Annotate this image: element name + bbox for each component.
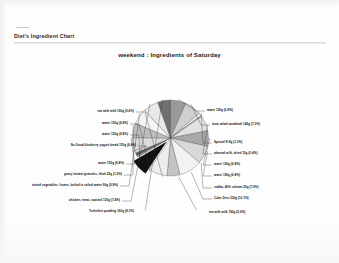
- pie-slice-label: almond milk, dried 12g (0.4%): [214, 152, 257, 155]
- pie-slice-label: gravy instant granules, thick 25g (1.2%): [64, 173, 122, 176]
- pie-slice-label: vodka, 40% volume 25g (7.9%): [214, 186, 259, 189]
- pie-slice-label: tea with milk 190g (5.6%): [209, 211, 245, 214]
- pie-chart: water 150g (6.8%)tuna salad sandwich 145…: [0, 62, 339, 210]
- pie-slice-label: water 150g (6.8%): [207, 109, 233, 112]
- pie-chart-svg: [0, 62, 339, 210]
- header-divider-secondary: [14, 43, 326, 44]
- pie-slice-label: water 150g (6.8%): [102, 122, 128, 125]
- chart-title: weekend : Ingredients of Saturday: [0, 51, 339, 58]
- scan-edge-shadow-top: [0, 0, 339, 7]
- pie-slice-label: chicken, meat, roasted 130g (7.4%): [69, 199, 120, 202]
- leader-line: [201, 163, 212, 188]
- pie-slice-label: water 150g (6.8%): [214, 174, 240, 177]
- pie-slice-label: tea with milk 190g (5.6%): [98, 110, 134, 113]
- pie-slice-label: So Good blueberry yogurt break 150g (6.4…: [71, 144, 136, 147]
- pie-slice-label: water 150g (6.8%): [98, 162, 124, 165]
- pie-slice-label: Coke Zero 330g (10.1%): [214, 197, 249, 200]
- pie-slice-label: Yorkshire pudding 160g (8.1%): [89, 210, 134, 213]
- pie-slice-label: water 150g (6.8%): [102, 133, 128, 136]
- page-tick-mark: [16, 27, 29, 28]
- pie-slice-label: mixed vegetables, frozen, boiled in salt…: [32, 184, 118, 187]
- leader-line: [179, 177, 207, 210]
- document-page: Diet's Ingredient Chart weekend : Ingred…: [0, 0, 339, 263]
- pie-slice-label: tuna salad sandwich 145g (7.3%): [212, 123, 260, 126]
- pie-slice-label: water 150g (6.8%): [214, 163, 240, 166]
- scan-edge-shadow-bottom: [0, 221, 339, 263]
- page-title: Diet's Ingredient Chart: [14, 33, 74, 39]
- pie-slice-label: Special K 8g (1.3%): [214, 141, 242, 144]
- pie-slice-group: [133, 100, 209, 176]
